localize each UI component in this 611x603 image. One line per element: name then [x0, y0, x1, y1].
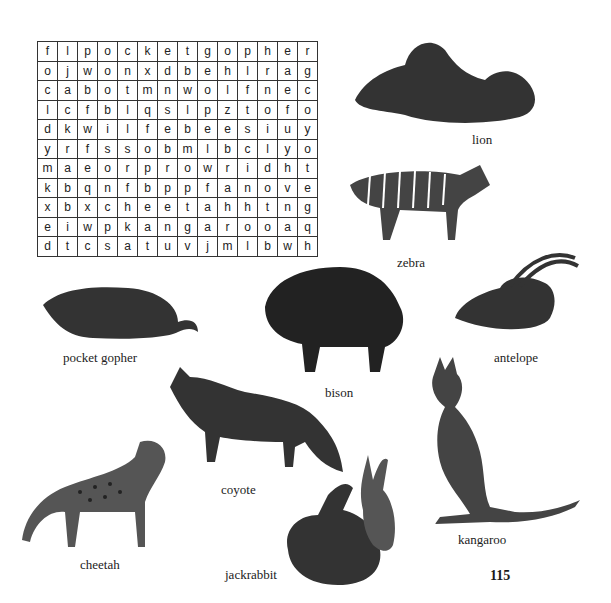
grid-cell: d [38, 120, 58, 140]
grid-cell: d [158, 61, 178, 81]
grid-cell: e [158, 120, 178, 140]
grid-cell: k [58, 120, 78, 140]
jackrabbit-label: jackrabbit [225, 567, 277, 583]
grid-cell: n [118, 61, 138, 81]
grid-cell: b [58, 198, 78, 218]
grid-cell: w [78, 61, 98, 81]
grid-cell: r [298, 42, 318, 62]
word-search-grid: flpocketgopherojwonxdbehlragcabotmnwolfn… [37, 41, 318, 257]
grid-cell: f [138, 120, 158, 140]
grid-cell: w [278, 237, 298, 257]
grid-cell: f [78, 139, 98, 159]
grid-cell: b [58, 178, 78, 198]
grid-cell: s [118, 139, 138, 159]
grid-cell: l [218, 81, 238, 101]
grid-cell: x [78, 198, 98, 218]
grid-cell: o [258, 100, 278, 120]
grid-cell: o [178, 159, 198, 179]
grid-cell: a [118, 237, 138, 257]
grid-cell: l [238, 237, 258, 257]
grid-cell: b [158, 139, 178, 159]
grid-cell: t [238, 100, 258, 120]
grid-cell: a [58, 81, 78, 101]
grid-row: xbxcheetahhtng [38, 198, 318, 218]
grid-cell: q [298, 217, 318, 237]
grid-cell: e [278, 81, 298, 101]
grid-cell: e [278, 42, 298, 62]
grid-cell: e [198, 61, 218, 81]
grid-cell: h [258, 42, 278, 62]
grid-cell: t [178, 42, 198, 62]
bison-illustration [260, 262, 408, 377]
grid-cell: c [118, 42, 138, 62]
grid-cell: o [258, 217, 278, 237]
grid-cell: n [278, 198, 298, 218]
grid-cell: e [38, 217, 58, 237]
grid-cell: o [38, 61, 58, 81]
grid-row: maeorprowridht [38, 159, 318, 179]
grid-row: kbqnfbppfanove [38, 178, 318, 198]
grid-cell: k [38, 178, 58, 198]
grid-cell: b [178, 120, 198, 140]
grid-cell: y [38, 139, 58, 159]
grid-cell: x [38, 198, 58, 218]
grid-cell: o [298, 139, 318, 159]
grid-cell: b [78, 81, 98, 101]
kangaroo-illustration [415, 352, 580, 527]
grid-cell: m [178, 139, 198, 159]
grid-cell: w [78, 120, 98, 140]
grid-cell: y [298, 120, 318, 140]
grid-cell: l [198, 139, 218, 159]
grid-cell: o [218, 42, 238, 62]
grid-cell: h [238, 198, 258, 218]
grid-cell: g [198, 42, 218, 62]
pocket-gopher-illustration [38, 280, 203, 345]
grid-cell: r [218, 217, 238, 237]
grid-cell: l [38, 100, 58, 120]
grid-cell: o [98, 61, 118, 81]
grid-cell: w [198, 159, 218, 179]
grid-cell: f [238, 81, 258, 101]
grid-cell: a [58, 159, 78, 179]
grid-cell: h [218, 198, 238, 218]
antelope-illustration [450, 248, 580, 338]
grid-cell: d [258, 159, 278, 179]
grid-cell: n [238, 178, 258, 198]
grid-cell: e [158, 42, 178, 62]
grid-cell: p [138, 159, 158, 179]
grid-cell: a [138, 217, 158, 237]
grid-cell: r [118, 159, 138, 179]
grid-cell: e [298, 178, 318, 198]
grid-cell: t [118, 81, 138, 101]
grid-row: dtcsatuvjmlbwh [38, 237, 318, 257]
grid-row: lcfblqslpztofo [38, 100, 318, 120]
grid-cell: i [258, 120, 278, 140]
grid-cell: f [78, 100, 98, 120]
grid-cell: h [298, 237, 318, 257]
lion-illustration [345, 30, 545, 130]
grid-cell: u [158, 237, 178, 257]
grid-cell: l [238, 61, 258, 81]
pocket-gopher-label: pocket gopher [63, 350, 137, 366]
grid-cell: l [178, 100, 198, 120]
grid-cell: h [218, 61, 238, 81]
grid-cell: u [278, 120, 298, 140]
grid-cell: w [178, 81, 198, 101]
grid-cell: m [218, 237, 238, 257]
grid-cell: r [258, 61, 278, 81]
grid-cell: p [238, 42, 258, 62]
grid-cell: b [98, 100, 118, 120]
grid-cell: o [238, 217, 258, 237]
grid-cell: j [58, 61, 78, 81]
grid-cell: c [38, 81, 58, 101]
grid-cell: b [218, 139, 238, 159]
grid-cell: n [158, 81, 178, 101]
grid-cell: k [138, 42, 158, 62]
grid-cell: e [78, 159, 98, 179]
grid-cell: p [78, 42, 98, 62]
grid-cell: h [118, 198, 138, 218]
grid-cell: s [158, 100, 178, 120]
grid-cell: o [298, 100, 318, 120]
grid-cell: v [178, 237, 198, 257]
grid-cell: o [138, 139, 158, 159]
